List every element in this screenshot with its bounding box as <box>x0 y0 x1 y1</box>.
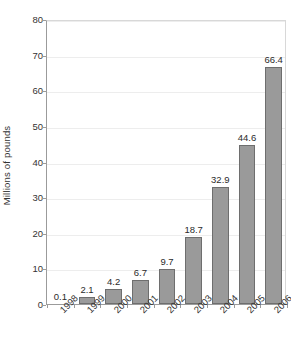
bar-value-label: 6.7 <box>126 268 155 278</box>
bar[interactable] <box>239 145 256 304</box>
x-tick-label: 2004 <box>218 308 225 315</box>
y-axis-title: Millions of pounds <box>0 100 14 230</box>
y-tickmark <box>42 269 46 270</box>
y-tickmark <box>42 56 46 57</box>
bar-slot: 32.9 <box>212 21 229 304</box>
bar-value-label: 9.7 <box>153 257 182 267</box>
y-tickmark <box>42 20 46 21</box>
bar-slot: 0.1 <box>52 21 69 304</box>
bar-value-label: 18.7 <box>179 225 208 235</box>
bars-layer: 0.12.14.26.79.718.732.944.666.4 <box>47 21 285 304</box>
y-tick-label: 60 <box>18 86 43 96</box>
y-tick-label: 10 <box>18 264 43 274</box>
y-axis-tick-labels: 01020304050607080 <box>18 0 43 353</box>
x-tick-label: 2005 <box>245 308 252 315</box>
plot-area: 0.12.14.26.79.718.732.944.666.4 <box>46 20 286 305</box>
y-tick-label: 0 <box>18 300 43 310</box>
bar-slot: 9.7 <box>159 21 176 304</box>
bar-slot: 6.7 <box>132 21 149 304</box>
y-tickmark <box>42 198 46 199</box>
bar-value-label: 32.9 <box>206 175 235 185</box>
bar-value-label: 66.4 <box>259 55 288 65</box>
y-tickmark <box>42 163 46 164</box>
y-tick-label: 30 <box>18 193 43 203</box>
y-tickmark <box>42 91 46 92</box>
x-tick-label: 2002 <box>165 308 172 315</box>
bar[interactable] <box>265 67 282 304</box>
bar[interactable] <box>212 187 229 304</box>
bar-slot: 4.2 <box>105 21 122 304</box>
bar-slot: 2.1 <box>79 21 96 304</box>
x-tick-label: 2003 <box>192 308 199 315</box>
bar[interactable] <box>185 237 202 304</box>
x-tick-label: 1998 <box>58 308 65 315</box>
bar-chart-figure: Millions of pounds 01020304050607080 0.1… <box>0 0 291 353</box>
y-tick-label: 50 <box>18 122 43 132</box>
y-tickmark <box>42 234 46 235</box>
y-tickmark <box>42 127 46 128</box>
x-tick-label: 2000 <box>112 308 119 315</box>
x-axis-tick-labels: 199819992000200120022003200420052006 <box>46 308 286 353</box>
y-tick-label: 80 <box>18 15 43 25</box>
x-tick-label: 2001 <box>138 308 145 315</box>
bar-slot: 66.4 <box>265 21 282 304</box>
x-tick-label: 1999 <box>85 308 92 315</box>
y-tick-label: 70 <box>18 51 43 61</box>
y-tickmark <box>42 305 46 306</box>
y-tick-label: 20 <box>18 229 43 239</box>
bar-slot: 18.7 <box>185 21 202 304</box>
y-axis-title-text: Millions of pounds <box>2 125 13 205</box>
bar-slot: 44.6 <box>239 21 256 304</box>
bar-value-label: 4.2 <box>99 277 128 287</box>
bar-value-label: 44.6 <box>233 133 262 143</box>
y-tick-label: 40 <box>18 158 43 168</box>
x-tick-label: 2006 <box>272 308 279 315</box>
